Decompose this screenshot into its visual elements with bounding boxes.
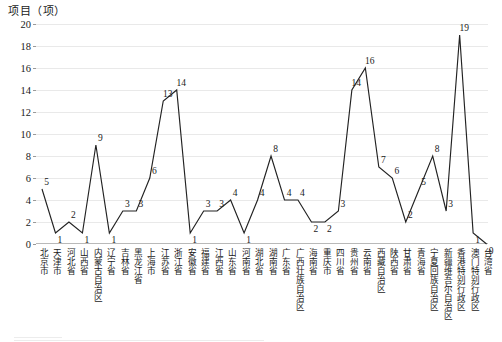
x-axis-category-label: 广东省	[280, 248, 289, 275]
page-footer-artifact	[14, 337, 304, 341]
x-axis-category-label: 西藏自治区	[374, 248, 383, 293]
y-axis-tick-label: 16	[21, 63, 32, 74]
x-axis-category-label: 辽宁省	[105, 248, 114, 275]
x-axis-category-label: 新疆维吾尔自治区	[441, 248, 450, 320]
x-axis-category-label: 广西壮族自治区	[293, 248, 302, 311]
x-axis-category-label: 贵州省	[347, 248, 356, 275]
plot-area: 0246810121416182051219133613141334148442…	[36, 24, 488, 244]
x-axis-category-label: 安徽省	[185, 248, 194, 275]
x-axis-category-label: 山东省	[226, 248, 235, 275]
x-axis-category-label: 福建省	[199, 248, 208, 275]
y-axis-tick-label: 12	[21, 107, 32, 118]
y-axis-tick-label: 8	[26, 151, 31, 162]
x-axis-category-label: 江苏省	[159, 248, 168, 275]
x-axis-category-label: 浙江省	[172, 248, 181, 275]
x-axis-category-label: 宁夏回族自治区	[428, 248, 437, 311]
x-axis-category-label: 甘肃省	[401, 248, 410, 275]
series-line	[42, 35, 487, 244]
x-axis-category-label: 河南省	[239, 248, 248, 275]
x-axis-category-label: 台湾省	[482, 248, 491, 275]
x-axis-category-label: 天津市	[51, 248, 60, 275]
x-axis-category-label: 青海省	[415, 248, 424, 275]
y-axis-tick-label: 18	[21, 41, 32, 52]
x-axis-category-label: 河北省	[64, 248, 73, 275]
x-axis-category-label: 黑龙江省	[132, 248, 141, 284]
x-axis-category-label: 澳门特别行政区	[468, 248, 477, 311]
line-series	[36, 24, 488, 244]
y-axis-tick-label: 4	[26, 195, 31, 206]
y-axis-tick-label: 2	[26, 217, 31, 228]
x-axis-category-label: 湖北省	[253, 248, 262, 275]
x-axis-category-label: 四川省	[334, 248, 343, 275]
x-axis-category-label: 香港特别行政区	[455, 248, 464, 311]
x-axis-category-label: 山西省	[78, 248, 87, 275]
x-axis-category-label: 海南省	[307, 248, 316, 275]
x-axis-category-label: 吉林省	[118, 248, 127, 275]
y-axis-title: 项目（项）	[8, 2, 66, 18]
y-axis-tick-label: 6	[26, 173, 31, 184]
x-axis-category-label: 湖南省	[266, 248, 275, 275]
y-axis-tick-mark	[33, 244, 36, 245]
x-axis-category-label: 重庆市	[320, 248, 329, 275]
y-axis-tick-label: 0	[26, 239, 31, 250]
y-axis-tick-label: 14	[21, 85, 32, 96]
y-axis-tick-label: 20	[21, 19, 32, 30]
chart-container: 项目（项） 0246810121416182051219133613141334…	[0, 0, 502, 342]
x-axis-category-label: 内蒙古自治区	[91, 248, 100, 302]
x-axis-category-label: 北京市	[37, 248, 46, 275]
x-axis-labels: 北京市天津市河北省山西省内蒙古自治区辽宁省吉林省黑龙江省上海市江苏省浙江省安徽省…	[36, 248, 488, 340]
x-axis-category-label: 陕西省	[388, 248, 397, 275]
y-axis-tick-label: 10	[21, 129, 32, 140]
x-axis-category-label: 上海市	[145, 248, 154, 275]
x-axis-category-label: 云南省	[361, 248, 370, 275]
x-axis-category-label: 江西省	[212, 248, 221, 275]
